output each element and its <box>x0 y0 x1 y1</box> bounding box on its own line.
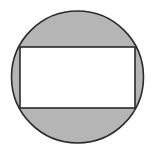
inscribed-rectangle <box>20 47 135 108</box>
diagram-canvas <box>0 0 153 152</box>
